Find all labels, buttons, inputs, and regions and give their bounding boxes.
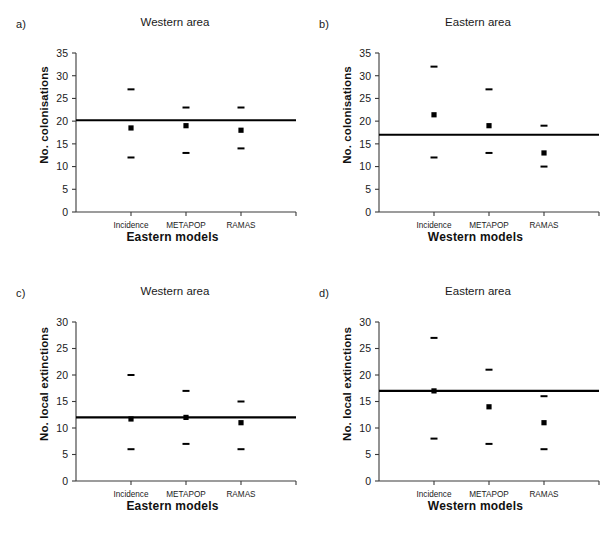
y-tick-label: 30 [359, 70, 371, 82]
x-category-label: Incidence [113, 490, 148, 499]
x-category-label: RAMAS [529, 490, 559, 499]
mean-square-marker [128, 416, 133, 421]
y-tick-label: 15 [359, 138, 371, 150]
mean-square-marker [238, 420, 243, 425]
x-category-label: RAMAS [529, 221, 559, 230]
mean-square-marker [183, 123, 188, 128]
y-tick-label: 30 [56, 316, 68, 328]
mean-square-marker [238, 128, 243, 133]
y-tick-label: 15 [359, 395, 371, 407]
y-tick-label: 0 [365, 206, 371, 218]
y-tick-label: 35 [359, 47, 371, 59]
figure-canvas: a) Western area No. colonisations Easter… [0, 0, 607, 539]
y-tick-label: 20 [359, 115, 371, 127]
panel-c: c) Western area No. local extinctions Ea… [0, 269, 303, 538]
x-category-label: RAMAS [226, 221, 256, 230]
y-tick-label: 0 [62, 206, 68, 218]
mean-square-marker [183, 415, 188, 420]
y-tick-label: 5 [62, 448, 68, 460]
mean-square-marker [541, 150, 546, 155]
y-tick-label: 30 [56, 70, 68, 82]
y-tick-label: 25 [359, 92, 371, 104]
y-tick-label: 35 [56, 47, 68, 59]
y-tick-label: 20 [56, 369, 68, 381]
panel-d: d) Eastern area No. local extinctions We… [303, 269, 606, 538]
x-category-label: Incidence [416, 490, 451, 499]
y-tick-label: 20 [56, 115, 68, 127]
y-tick-label: 5 [365, 183, 371, 195]
mean-square-marker [541, 420, 546, 425]
x-category-label: METAPOP [166, 221, 206, 230]
y-tick-label: 25 [56, 342, 68, 354]
y-tick-label: 0 [365, 475, 371, 487]
y-tick-label: 20 [359, 369, 371, 381]
panel-b: b) Eastern area No. colonisations Wester… [303, 0, 606, 269]
y-tick-label: 25 [359, 342, 371, 354]
x-category-label: METAPOP [166, 490, 206, 499]
plot-area: 05101520253035IncidenceMETAPOPRAMAS [0, 0, 303, 269]
mean-square-marker [486, 123, 491, 128]
panel-a: a) Western area No. colonisations Easter… [0, 0, 303, 269]
plot-area: 051015202530IncidenceMETAPOPRAMAS [303, 269, 606, 538]
y-tick-label: 10 [359, 160, 371, 172]
plot-area: 051015202530IncidenceMETAPOPRAMAS [0, 269, 303, 538]
y-tick-label: 30 [359, 316, 371, 328]
y-tick-label: 10 [359, 422, 371, 434]
mean-square-marker [431, 388, 436, 393]
plot-area: 05101520253035IncidenceMETAPOPRAMAS [303, 0, 606, 269]
x-category-label: RAMAS [226, 490, 256, 499]
mean-square-marker [486, 404, 491, 409]
y-tick-label: 10 [56, 422, 68, 434]
x-category-label: METAPOP [469, 221, 509, 230]
x-category-label: Incidence [113, 221, 148, 230]
x-category-label: METAPOP [469, 490, 509, 499]
mean-square-marker [128, 125, 133, 130]
mean-square-marker [431, 112, 436, 117]
y-tick-label: 10 [56, 160, 68, 172]
y-tick-label: 5 [365, 448, 371, 460]
y-tick-label: 15 [56, 138, 68, 150]
y-tick-label: 0 [62, 475, 68, 487]
x-category-label: Incidence [416, 221, 451, 230]
y-tick-label: 5 [62, 183, 68, 195]
y-tick-label: 15 [56, 395, 68, 407]
y-tick-label: 25 [56, 92, 68, 104]
